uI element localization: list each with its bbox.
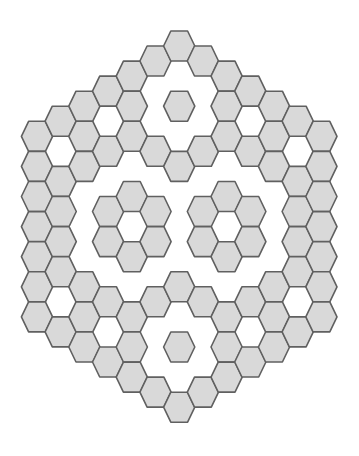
hexagon-cell xyxy=(306,182,337,212)
hexagon-cell xyxy=(306,302,337,332)
hexagon-cell xyxy=(306,151,337,181)
hexagon-cell xyxy=(140,197,171,227)
hexagon-cell xyxy=(140,227,171,257)
hexagon-cell xyxy=(116,332,147,362)
hexagon-cell xyxy=(235,197,266,227)
hexagon-cell xyxy=(45,227,76,257)
hexagon-cell xyxy=(164,332,195,362)
hexagon-cell xyxy=(235,227,266,257)
hexagon-cell xyxy=(306,242,337,272)
hexagon-cell xyxy=(164,91,195,121)
hexagon-cell xyxy=(306,121,337,151)
hexagon-cell xyxy=(306,212,337,242)
hexagon-pattern-diagram xyxy=(0,0,359,456)
hexagon-cell xyxy=(116,91,147,121)
hexagon-cell xyxy=(45,197,76,227)
hexagon-cell xyxy=(306,272,337,302)
